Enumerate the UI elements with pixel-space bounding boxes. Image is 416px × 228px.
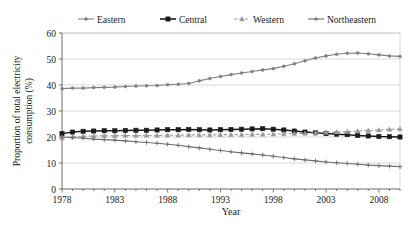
data-point xyxy=(208,147,213,152)
data-point xyxy=(366,134,370,138)
chart-figure: 0102030405060 19781983198819931998200320… xyxy=(0,0,416,228)
data-point xyxy=(367,52,370,55)
x-tick-label: 1988 xyxy=(158,195,177,205)
data-point xyxy=(282,65,285,68)
y-tick-label: 40 xyxy=(47,81,57,91)
data-point xyxy=(208,128,212,132)
data-point xyxy=(324,160,329,165)
data-point xyxy=(198,79,201,82)
line-chart: 0102030405060 19781983198819931998200320… xyxy=(0,0,416,228)
data-point xyxy=(292,157,297,162)
data-point xyxy=(166,128,170,132)
data-point xyxy=(388,54,391,57)
x-tick-label: 1983 xyxy=(105,195,124,205)
data-point xyxy=(166,17,170,21)
data-point xyxy=(102,137,107,142)
data-point xyxy=(261,127,265,131)
data-point xyxy=(82,87,85,90)
data-point xyxy=(346,52,349,55)
data-point xyxy=(144,140,149,145)
data-point xyxy=(272,67,275,70)
data-point xyxy=(92,129,96,133)
data-point xyxy=(229,127,233,131)
data-point xyxy=(92,86,95,89)
data-point xyxy=(123,128,127,132)
data-point xyxy=(144,128,148,132)
data-point xyxy=(334,160,339,165)
data-point xyxy=(155,128,159,132)
data-point xyxy=(113,129,117,133)
data-point xyxy=(387,164,392,169)
data-point xyxy=(219,75,222,78)
data-point xyxy=(260,153,265,158)
data-point xyxy=(240,72,243,75)
data-point xyxy=(398,164,403,169)
legend-label: Central xyxy=(179,15,207,25)
data-point xyxy=(197,128,201,132)
legend-label: Northeastern xyxy=(327,15,376,25)
legend-item-northeastern[interactable]: Northeastern xyxy=(308,15,376,25)
legend-item-eastern[interactable]: Eastern xyxy=(78,15,126,25)
legend-label: Western xyxy=(253,15,284,25)
data-point xyxy=(165,142,170,147)
x-tick-label: 1998 xyxy=(264,195,283,205)
data-point xyxy=(377,134,381,138)
data-point xyxy=(293,62,296,65)
data-point xyxy=(166,83,169,86)
data-point xyxy=(229,150,234,155)
data-point xyxy=(197,146,202,151)
y-tick-label: 10 xyxy=(47,159,57,169)
legend-label: Eastern xyxy=(97,15,126,25)
chart-legend: EasternCentralWesternNortheastern xyxy=(78,15,376,25)
data-point xyxy=(282,155,287,160)
data-point xyxy=(345,161,350,166)
data-point xyxy=(271,127,275,131)
data-point xyxy=(208,77,211,80)
data-point xyxy=(186,144,191,149)
data-point xyxy=(356,133,360,137)
data-point xyxy=(70,130,74,134)
legend-item-western[interactable]: Western xyxy=(234,15,284,25)
data-point xyxy=(156,84,159,87)
data-point xyxy=(377,163,382,168)
x-tick-label: 2008 xyxy=(369,195,388,205)
data-point xyxy=(239,127,243,131)
y-axis-label-line2: consumption (%) xyxy=(24,78,35,144)
data-point xyxy=(251,70,254,73)
data-point xyxy=(81,129,85,133)
data-point xyxy=(103,86,106,89)
data-point xyxy=(356,52,359,55)
data-point xyxy=(145,84,148,87)
y-tick-label: 20 xyxy=(47,133,57,143)
data-point xyxy=(134,85,137,88)
data-point xyxy=(377,53,380,56)
data-point xyxy=(176,128,180,132)
data-point xyxy=(398,135,402,139)
data-point xyxy=(176,143,181,148)
data-point xyxy=(113,86,116,89)
data-point xyxy=(71,87,74,90)
x-tick-label: 1993 xyxy=(211,195,230,205)
data-point xyxy=(313,159,318,164)
series-eastern xyxy=(61,52,402,91)
data-point xyxy=(325,54,328,57)
data-point xyxy=(187,127,191,131)
data-point xyxy=(250,152,255,157)
data-point xyxy=(102,129,106,133)
series-line xyxy=(62,53,400,89)
y-axis-label-line1: Proportion of total electricity xyxy=(12,55,22,166)
data-point xyxy=(123,139,128,144)
data-point xyxy=(387,135,391,139)
x-tick-label: 1978 xyxy=(53,195,72,205)
legend-item-central[interactable]: Central xyxy=(160,15,207,25)
data-point xyxy=(399,55,402,58)
x-tick-label: 2003 xyxy=(317,195,336,205)
data-point xyxy=(61,87,64,90)
y-tick-label: 30 xyxy=(47,107,57,117)
data-point xyxy=(239,151,244,156)
data-point xyxy=(218,128,222,132)
y-tick-label: 50 xyxy=(47,55,57,65)
x-axis-label: Year xyxy=(222,206,241,217)
grid-lines xyxy=(62,33,400,163)
data-point xyxy=(303,59,306,62)
